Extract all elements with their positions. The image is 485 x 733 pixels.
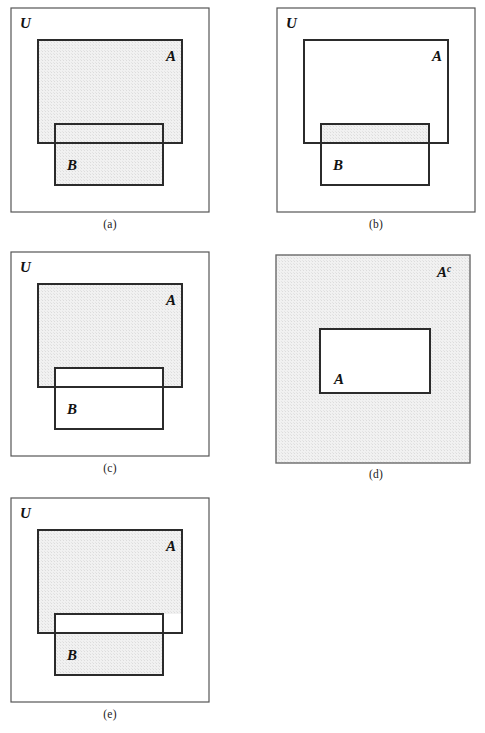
panel-d: Ac A: [260, 245, 485, 475]
panel-b-universe-label: U: [286, 15, 298, 31]
panel-c-universe-label: U: [20, 259, 32, 275]
panel-c-caption: (c): [0, 462, 220, 474]
panel-a-set-b-label: B: [66, 157, 77, 173]
panel-e-set-b-label: B: [66, 647, 77, 663]
panel-d-caption: (d): [266, 468, 485, 480]
panel-c-set-a-label: A: [165, 292, 176, 308]
set-operations-diagram: U A B U A B U A B: [0, 0, 485, 733]
panel-b-set-b-label: B: [332, 157, 343, 173]
panel-e-caption: (e): [0, 708, 220, 720]
panel-b-caption: (b): [266, 218, 485, 230]
panel-b-universe-box: [277, 8, 475, 212]
panel-d-set-a-label: A: [333, 371, 344, 387]
panel-e-shading-symmetric-difference: [0, 490, 485, 733]
panel-a-universe-label: U: [20, 15, 32, 31]
panel-e: U A B: [0, 490, 485, 733]
venn-diagram-figure: U A B U A B U A B: [0, 0, 485, 733]
panel-e-universe-label: U: [20, 505, 32, 521]
panel-b-set-a-label: A: [431, 48, 442, 64]
panel-d-complement-base: A: [436, 264, 447, 280]
panel-c-set-b-label: B: [66, 401, 77, 417]
panel-a-set-a-label: A: [165, 48, 176, 64]
panel-e-set-a-label: A: [165, 538, 176, 554]
panel-a-caption: (a): [0, 218, 220, 230]
panel-b: U A B: [277, 8, 475, 212]
